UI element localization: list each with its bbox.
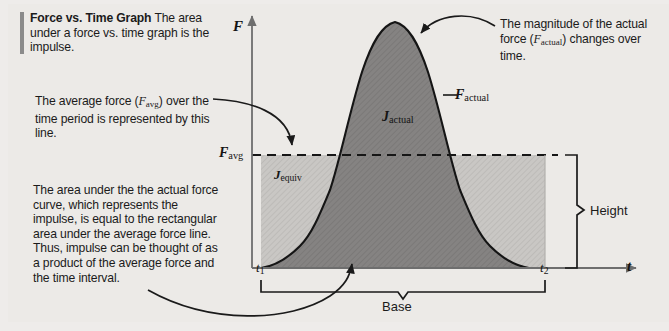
force-time-graph [0, 0, 669, 331]
bracket-base [261, 280, 545, 299]
label-f-actual-var: F [455, 87, 464, 102]
label-j-actual-var: J [382, 109, 389, 124]
label-f-avg: Favg [219, 144, 243, 161]
label-base: Base [382, 299, 412, 314]
tick-label-t1: t1 [256, 260, 264, 276]
arrow-area-note-to-curve [148, 264, 352, 316]
label-j-equiv: Jequiv [274, 167, 302, 183]
label-j-actual: Jactual [382, 108, 414, 125]
arrow-magnitude-to-curve [421, 16, 495, 33]
tick-t2-sub: 2 [544, 265, 549, 276]
label-j-actual-sub: actual [389, 114, 414, 125]
label-f-actual-sub: actual [464, 92, 489, 103]
label-f-actual: Factual [455, 86, 489, 103]
tick-t1-sub: 1 [260, 265, 265, 276]
bracket-height [565, 155, 584, 268]
figure-container: Force vs. Time Graph The area under a fo… [0, 0, 669, 331]
tick-label-t2: t2 [540, 260, 548, 276]
axis-label-force: F [233, 18, 243, 35]
label-height: Height [590, 203, 628, 218]
label-j-equiv-sub: equiv [281, 172, 302, 183]
label-f-avg-sub: avg [228, 150, 243, 161]
label-f-avg-var: F [219, 145, 228, 160]
axis-label-time: t [627, 258, 631, 275]
